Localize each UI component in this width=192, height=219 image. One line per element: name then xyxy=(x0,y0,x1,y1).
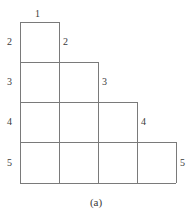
staircase-diagram xyxy=(0,0,192,219)
label-row-3: 4 xyxy=(7,117,12,127)
grid-lines xyxy=(20,22,177,184)
label-step-1: 2 xyxy=(63,37,68,47)
label-top-1: 1 xyxy=(35,9,40,19)
label-row-4: 5 xyxy=(7,158,12,168)
label-step-2: 3 xyxy=(102,77,107,87)
label-step-4: 5 xyxy=(180,158,185,168)
label-row-1: 2 xyxy=(7,37,12,47)
label-step-3: 4 xyxy=(141,117,146,127)
label-row-2: 3 xyxy=(7,77,12,87)
figure-caption: (a) xyxy=(0,196,192,208)
staircase-figure: 1 2 2 3 3 4 4 5 5 (a) xyxy=(0,0,192,219)
